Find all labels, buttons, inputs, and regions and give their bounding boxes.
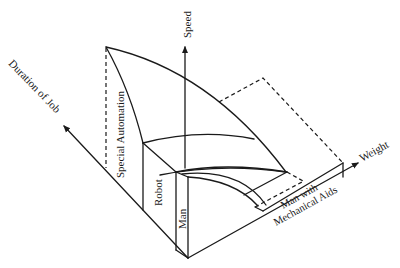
- robot-top-arc: [143, 134, 254, 143]
- duration-axis-label: Duration of Job: [7, 57, 64, 115]
- robot-label: Robot: [152, 179, 164, 206]
- extended-region-dashed-outline: [219, 78, 343, 163]
- man-label: Man: [176, 208, 188, 229]
- automation-region-diagram: Speed Duration of Job Weight Special Aut…: [0, 0, 400, 268]
- diagram-canvas: Speed Duration of Job Weight Special Aut…: [0, 0, 400, 268]
- duration-axis: [64, 126, 188, 258]
- duration-axis-arrow-icon: [64, 126, 188, 258]
- weight-axis-arrow-icon: [188, 163, 358, 258]
- speed-axis-label: Speed: [181, 11, 193, 38]
- weight-axis: [188, 163, 358, 258]
- special-automation-label: Special Automation: [114, 90, 126, 178]
- weight-axis-label: Weight: [357, 138, 390, 164]
- robot-slant-edge: [143, 143, 176, 172]
